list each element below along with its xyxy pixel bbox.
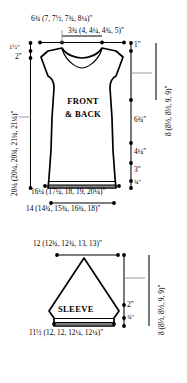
label-waist-band: 3" [134,166,141,173]
label-armhole-depth: 8 (8½, 8½, 9, 9)" [165,86,172,136]
sleeve-outline [49,258,119,326]
label-total-length: 20¼ (20¼, 20¾, 21¼, 21¼)" [11,110,18,196]
label-sleeve-length: 8 (8½, 8½, 9, 9)" [158,285,165,335]
label-lower-body: 4¼" [134,148,146,155]
piece-label-front-back-line2: & BACK [52,110,114,119]
piece-label-sleeve: SLEEVE [58,305,94,314]
label-side-seam: 6¾" [134,116,146,123]
label-hem: ¾" [134,179,141,185]
knitting-schematic-diagram: 6¾ (7, 7½, 7¾, 8¼)" 3¾ (4, 4¼, 4¾, 5)" 1… [0,0,187,383]
label-sleeve-top-width: 12 (12¾, 12¾, 13, 13)" [33,240,102,247]
label-shoulder-cap: 1" [134,41,141,48]
piece-label-front-back-line1: FRONT [52,97,114,106]
label-neck-width: 3¾ (4, 4¼, 4¾, 5)" [68,27,124,34]
label-sleeve-cuff-depth: 2" [127,301,134,308]
label-shoulder-slope: 1½" [9,44,20,51]
label-shoulder-to-shoulder: 6¾ (7, 7½, 7¾, 8¼)" [31,15,93,22]
label-sleeve-cuff-width: 11½ (12, 12, 12¼, 12¼)" [29,329,103,336]
label-hem-width: 14 (14¾, 15¾, 16¾, 18)" [26,205,100,212]
label-bust-upper: 16¼ (17¼, 18, 19, 20¼)" [31,188,105,195]
label-sleeve-hem: ¾" [127,314,134,320]
label-neck-depth: 2" [15,53,22,60]
